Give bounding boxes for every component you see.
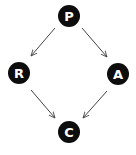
- edge-r-c: [31, 90, 55, 118]
- node-r: R: [8, 62, 30, 84]
- node-a: A: [107, 63, 129, 85]
- edge-a-c: [83, 91, 107, 118]
- node-c-label: C: [64, 125, 74, 140]
- diagram-canvas: P R A C: [0, 0, 136, 155]
- node-c: C: [58, 121, 80, 143]
- edge-p-r: [31, 28, 55, 56]
- edge-p-a: [82, 28, 107, 57]
- node-p: P: [58, 5, 80, 27]
- node-p-label: P: [64, 9, 74, 24]
- node-r-label: R: [14, 66, 24, 81]
- node-a-label: A: [113, 67, 123, 82]
